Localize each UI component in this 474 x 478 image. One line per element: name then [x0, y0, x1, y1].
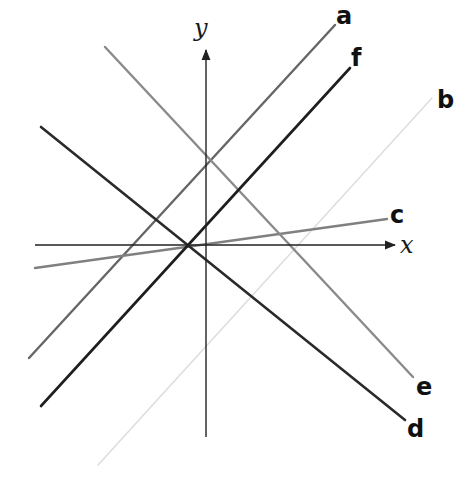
line-label-c: c	[390, 201, 404, 229]
line-b	[98, 98, 432, 465]
line-f	[41, 68, 350, 406]
line-c	[35, 219, 387, 268]
coordinate-diagram: x y abcdef	[0, 0, 474, 478]
line-label-d: d	[407, 415, 424, 443]
line-label-f: f	[351, 44, 362, 72]
line-label-e: e	[416, 373, 432, 401]
line-label-a: a	[336, 2, 352, 30]
line-a	[29, 25, 335, 358]
line-d	[41, 127, 405, 420]
line-label-b: b	[437, 86, 454, 114]
line-e	[105, 47, 413, 377]
x-axis-label: x	[400, 231, 414, 259]
y-axis-label: y	[193, 14, 208, 42]
